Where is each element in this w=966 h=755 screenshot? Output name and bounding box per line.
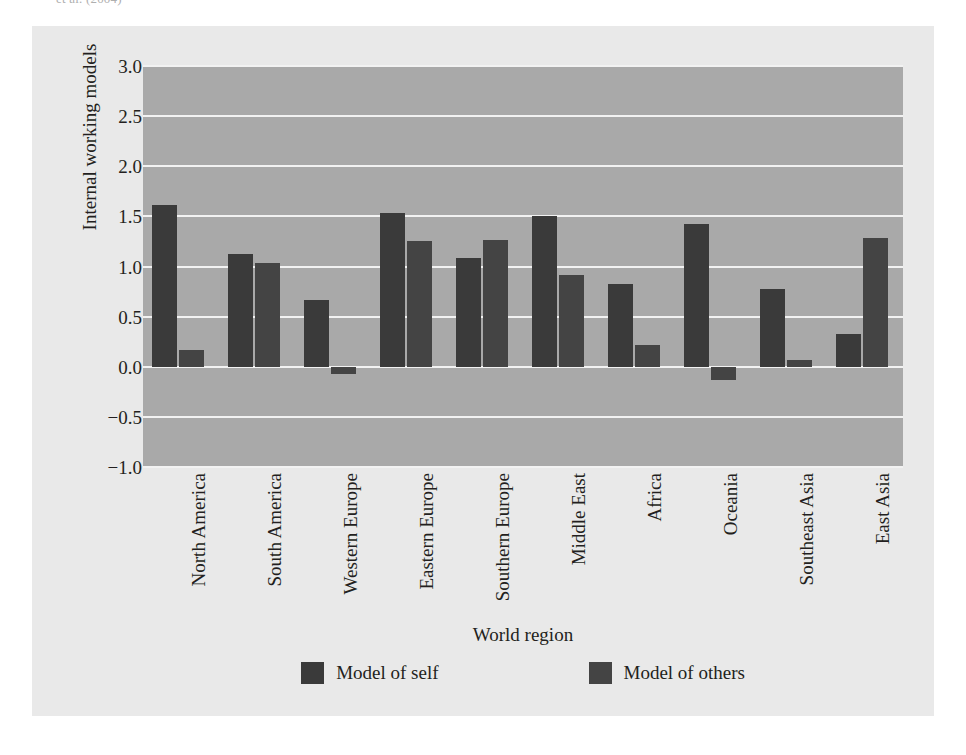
x-axis-title: World region [143,624,903,646]
bar-group [827,66,903,467]
x-axis-tick-label: Southern Europe [493,467,512,647]
x-axis-tick-label: Western Europe [341,467,360,647]
legend-item-label: Model of others [624,662,745,684]
bar [407,241,432,366]
bar [228,254,253,366]
x-axis-tick-label: Eastern Europe [417,467,436,647]
x-axis-tick-labels: North AmericaSouth AmericaWestern Europe… [143,467,903,647]
bar [760,289,785,367]
bar-group [751,66,827,467]
legend-item[interactable]: Model of self [301,662,438,684]
bar [836,334,861,367]
bar-group [295,66,371,467]
bar [304,300,329,367]
bar [532,216,557,366]
bar-group [523,66,599,467]
x-axis-tick-label: Southeast Asia [797,467,816,647]
bar [787,360,812,367]
x-axis-tick-label: Oceania [721,467,740,647]
bar [255,263,280,366]
y-axis-tick-label: 2.5 [90,107,142,126]
bar [331,367,356,374]
bar [152,205,177,366]
bar [863,238,888,366]
chart-legend: Model of selfModel of others [143,662,903,684]
y-axis-tick-labels: 3.02.52.01.51.00.50.0−0.5−1.0 [90,26,142,716]
y-axis-tick-label: 1.5 [90,207,142,226]
plot-area [143,66,903,467]
legend-item-label: Model of self [336,662,438,684]
x-axis-tick-label: Africa [645,467,664,647]
bar-group [447,66,523,467]
bar-group [219,66,295,467]
bar [608,284,633,367]
bar [711,367,736,380]
x-axis-tick-label: East Asia [873,467,892,647]
legend-swatch-model-of-self [301,662,324,684]
bar [456,258,481,366]
figure-panel: Internal working models 3.02.52.01.51.00… [32,26,934,716]
bar [684,224,709,366]
bar-group [143,66,219,467]
bars-layer [143,66,903,467]
y-axis-tick-label: 0.0 [90,357,142,376]
bar [483,240,508,366]
bar [179,350,204,367]
x-axis-tick-label: South America [265,467,284,647]
legend-item[interactable]: Model of others [589,662,745,684]
bar-group [371,66,447,467]
x-axis-tick-label: Middle East [569,467,588,647]
y-axis-tick-label: −1.0 [90,458,142,477]
bar-group [675,66,751,467]
bar [559,275,584,367]
y-axis-tick-label: 0.5 [90,307,142,326]
y-axis-tick-label: 2.0 [90,157,142,176]
bar [635,345,660,367]
bar-group [599,66,675,467]
y-axis-tick-label: 1.0 [90,257,142,276]
y-axis-tick-label: −0.5 [90,407,142,426]
bar [380,213,405,366]
x-axis-tick-label: North America [189,467,208,647]
legend-swatch-model-of-others [589,662,612,684]
y-axis-tick-label: 3.0 [90,57,142,76]
